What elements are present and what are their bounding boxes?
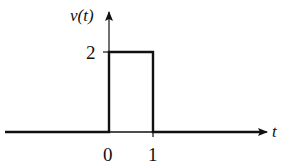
pulse-diagram: v(t) t 2 0 1	[0, 0, 293, 163]
x-tick-label-1: 1	[148, 144, 158, 163]
x-tick-label-0: 0	[103, 144, 113, 163]
y-axis-label: v(t)	[70, 6, 94, 25]
y-tick-label-2: 2	[86, 42, 96, 63]
pulse-signal	[5, 52, 262, 132]
x-axis-label: t	[272, 122, 278, 141]
